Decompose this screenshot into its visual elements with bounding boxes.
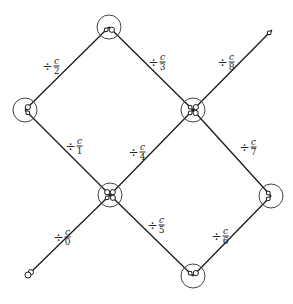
divide-operator: ÷ [149,56,159,68]
input-port-icon [26,111,30,115]
numerator: c [65,228,70,237]
fraction: c0 [65,228,71,247]
input-port-icon [188,105,192,109]
denominator: 3 [160,62,166,72]
edge-label-divide-c-6: ÷c6 [212,227,229,246]
fraction: c8 [229,53,235,72]
output-port-icon [110,190,115,195]
edge-line [110,195,193,276]
divide-operator: ÷ [240,141,250,153]
edge-label-divide-c-0: ÷c0 [54,228,71,247]
numerator: c [160,53,165,62]
output-port-icon [25,105,30,110]
divide-operator: ÷ [218,56,228,68]
input-port-icon [188,271,192,275]
fraction: c5 [159,216,165,235]
edge-line [110,110,193,195]
fraction: c1 [77,137,83,156]
fraction: c6 [223,227,229,246]
output-port-icon [193,110,198,115]
denominator: 5 [159,225,165,235]
numerator: c [229,53,234,62]
denominator: 4 [140,152,146,162]
output-port-icon [193,105,198,110]
start-node-icon [25,272,31,278]
numerator: c [251,138,256,147]
numerator: c [223,227,228,236]
output-port-icon [105,190,110,195]
divide-operator: ÷ [212,230,222,242]
denominator: 1 [77,146,83,156]
edge-label-divide-c-1: ÷c1 [66,137,83,156]
divide-operator: ÷ [66,140,76,152]
fraction: c4 [140,143,146,162]
numerator: c [54,57,59,66]
input-port-icon [266,191,270,195]
denominator: 6 [223,236,229,246]
edge-label-divide-c-2: ÷c2 [43,57,60,76]
input-port-icon [104,28,108,32]
fraction: c2 [54,57,60,76]
numerator: c [140,143,145,152]
divide-operator: ÷ [148,219,158,231]
edge-label-divide-c-3: ÷c3 [149,53,166,72]
edge-label-divide-c-8: ÷c8 [218,53,235,72]
edge-line [193,110,271,196]
edge-label-divide-c-5: ÷c5 [148,216,165,235]
numerator: c [77,137,82,146]
denominator: 7 [251,147,257,157]
denominator: 2 [54,66,60,76]
edge-label-divide-c-7: ÷c7 [240,138,257,157]
fraction: c7 [251,138,257,157]
input-port-icon [267,31,271,35]
fraction: c3 [160,53,166,72]
denominator: 8 [229,62,235,72]
output-port-icon [109,27,114,32]
output-port-icon [193,271,198,276]
edge-label-divide-c-4: ÷c4 [129,143,146,162]
output-port-icon [110,195,115,200]
denominator: 0 [65,237,71,247]
divide-operator: ÷ [54,231,64,243]
input-port-icon [188,111,192,115]
input-port-icon [105,196,109,200]
edge-line [25,27,109,110]
divide-operator: ÷ [129,146,139,158]
numerator: c [159,216,164,225]
edge-line [193,196,271,276]
input-port-icon [266,197,270,201]
divide-operator: ÷ [43,60,53,72]
diagram-canvas: ÷c0÷c1÷c2÷c3÷c4÷c5÷c6÷c7÷c8 [0,0,293,304]
